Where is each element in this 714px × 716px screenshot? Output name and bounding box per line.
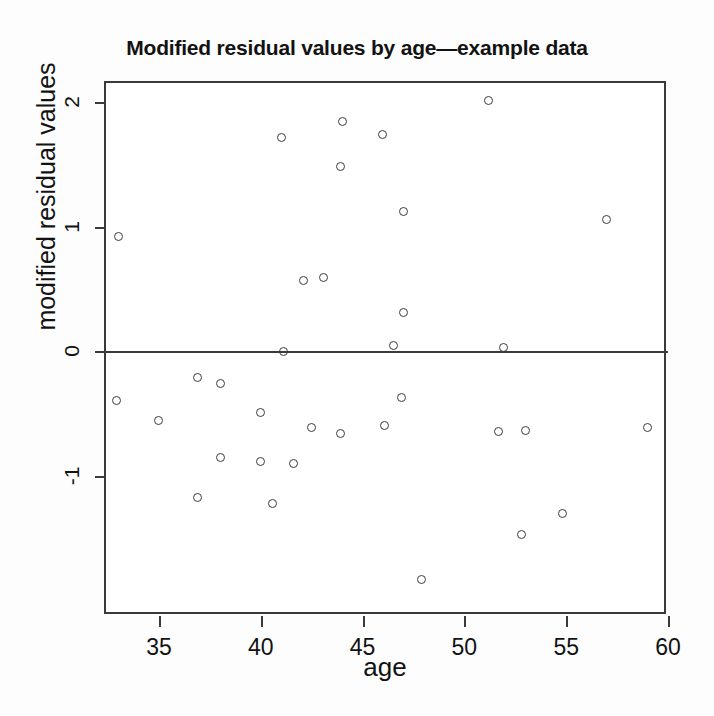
data-point [319, 273, 328, 282]
x-tick-label: 50 [434, 634, 494, 661]
data-point [517, 530, 526, 539]
x-tick-label: 60 [638, 634, 698, 661]
chart-title: Modified residual values by age—example … [0, 36, 714, 60]
x-tick-mark [261, 616, 263, 627]
y-tick-label: 1 [60, 207, 84, 247]
data-point [399, 308, 408, 317]
zero-reference-line [106, 351, 668, 353]
data-point [289, 459, 298, 468]
x-tick-mark [363, 616, 365, 627]
scatter-plot-figure: Modified residual values by age—example … [0, 0, 714, 716]
data-point [336, 162, 345, 171]
data-point [417, 575, 426, 584]
data-point [216, 453, 225, 462]
y-tick-label: 2 [60, 82, 84, 122]
x-tick-label: 40 [231, 634, 291, 661]
data-point [112, 396, 121, 405]
data-point [336, 429, 345, 438]
data-point [378, 130, 387, 139]
y-tick-mark [95, 227, 106, 229]
x-tick-mark [566, 616, 568, 627]
data-point [499, 343, 508, 352]
data-point [389, 341, 398, 350]
y-axis-title: modified residual values [32, 0, 61, 457]
data-point [602, 215, 611, 224]
data-point [643, 423, 652, 432]
data-point [279, 347, 288, 356]
x-tick-label: 45 [333, 634, 393, 661]
x-tick-label: 55 [536, 634, 596, 661]
x-tick-label: 35 [129, 634, 189, 661]
data-point [277, 133, 286, 142]
data-point [558, 509, 567, 518]
data-point [299, 276, 308, 285]
data-point [484, 96, 493, 105]
data-point [256, 457, 265, 466]
x-tick-mark [464, 616, 466, 627]
data-point [154, 416, 163, 425]
data-point [397, 393, 406, 402]
plot-area: -1012 354045505560 [104, 81, 666, 614]
data-point [399, 207, 408, 216]
data-point [193, 493, 202, 502]
y-tick-label: 0 [60, 331, 84, 371]
data-point [521, 426, 530, 435]
data-point [494, 427, 503, 436]
y-tick-mark [95, 102, 106, 104]
data-point [380, 421, 389, 430]
y-tick-mark [95, 351, 106, 353]
y-tick-mark [95, 476, 106, 478]
data-point [307, 423, 316, 432]
data-point [338, 117, 347, 126]
data-point [193, 373, 202, 382]
y-tick-label: -1 [60, 456, 84, 496]
data-point [256, 408, 265, 417]
x-tick-mark [159, 616, 161, 627]
data-point [114, 232, 123, 241]
x-tick-mark [668, 616, 670, 627]
data-point [216, 379, 225, 388]
data-point [268, 499, 277, 508]
